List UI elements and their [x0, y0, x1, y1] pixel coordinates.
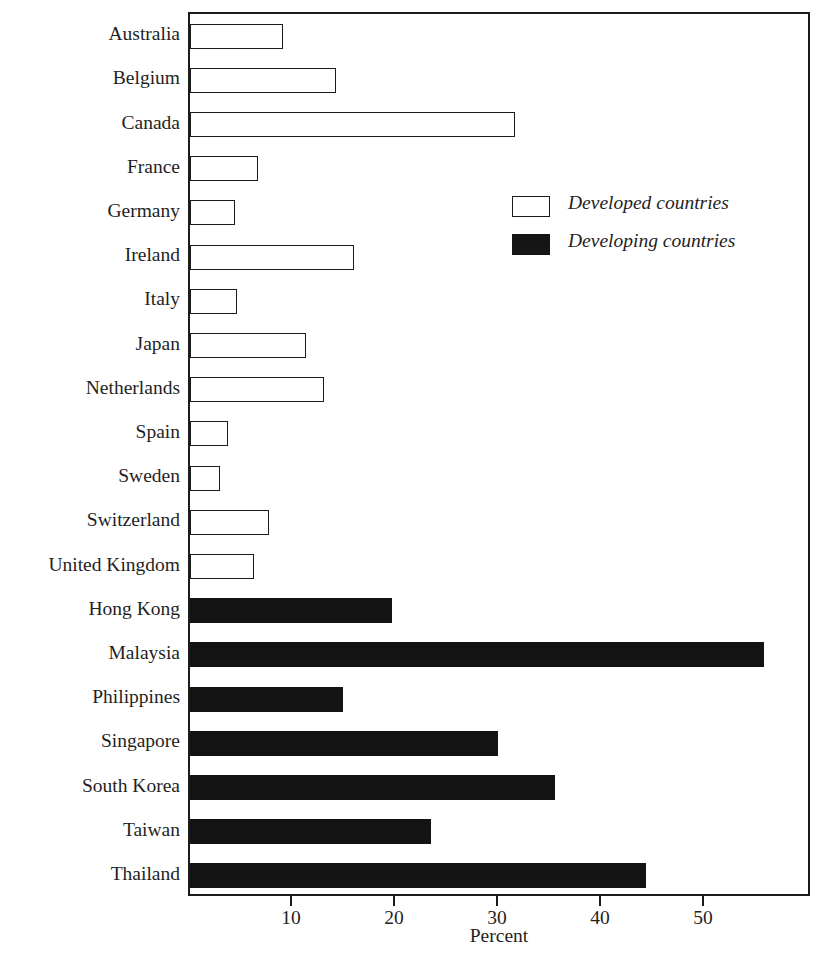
category-label-france: France	[0, 157, 180, 177]
category-label-italy: Italy	[0, 289, 180, 309]
open-square-icon	[512, 196, 550, 217]
category-label-south-korea: South Korea	[0, 776, 180, 796]
category-label-australia: Australia	[0, 24, 180, 44]
bar-chart-figure: AustraliaBelgiumCanadaFranceGermanyIrela…	[0, 0, 827, 977]
bar-united-kingdom	[190, 554, 254, 579]
bar-canada	[190, 112, 515, 137]
category-label-switzerland: Switzerland	[0, 510, 180, 530]
category-label-thailand: Thailand	[0, 864, 180, 884]
chart-legend: Developed countries Developing countries	[512, 192, 787, 268]
x-tick-label-10: 10	[281, 908, 301, 928]
category-label-philippines: Philippines	[0, 687, 180, 707]
x-tick-20	[393, 896, 395, 906]
bar-taiwan	[190, 819, 431, 844]
bar-thailand	[190, 863, 646, 888]
bar-italy	[190, 289, 237, 314]
bar-sweden	[190, 466, 220, 491]
x-tick-10	[290, 896, 292, 906]
category-label-taiwan: Taiwan	[0, 820, 180, 840]
legend-label-developing: Developing countries	[568, 230, 735, 252]
category-axis-labels: AustraliaBelgiumCanadaFranceGermanyIrela…	[0, 12, 180, 896]
bar-japan	[190, 333, 306, 358]
category-label-hong-kong: Hong Kong	[0, 599, 180, 619]
category-label-japan: Japan	[0, 334, 180, 354]
category-label-belgium: Belgium	[0, 68, 180, 88]
x-axis-title: Percent	[188, 925, 810, 947]
x-tick-30	[496, 896, 498, 906]
bar-south-korea	[190, 775, 555, 800]
legend-label-developed: Developed countries	[568, 192, 729, 214]
plot-area	[188, 12, 810, 896]
x-tick-label-20: 20	[384, 908, 404, 928]
x-tick-label-40: 40	[590, 908, 610, 928]
bar-belgium	[190, 68, 336, 93]
filled-square-icon	[512, 234, 550, 255]
bar-germany	[190, 200, 235, 225]
category-label-spain: Spain	[0, 422, 180, 442]
bar-france	[190, 156, 258, 181]
legend-item-developed: Developed countries	[512, 192, 787, 230]
category-label-germany: Germany	[0, 201, 180, 221]
bar-spain	[190, 421, 228, 446]
bar-philippines	[190, 687, 343, 712]
legend-item-developing: Developing countries	[512, 230, 787, 268]
category-label-united-kingdom: United Kingdom	[0, 555, 180, 575]
x-tick-40	[599, 896, 601, 906]
category-label-netherlands: Netherlands	[0, 378, 180, 398]
bar-malaysia	[190, 642, 764, 667]
bar-australia	[190, 24, 283, 49]
bar-ireland	[190, 245, 354, 270]
category-label-ireland: Ireland	[0, 245, 180, 265]
bar-netherlands	[190, 377, 324, 402]
category-label-sweden: Sweden	[0, 466, 180, 486]
x-tick-label-50: 50	[693, 908, 713, 928]
x-tick-50	[702, 896, 704, 906]
bar-singapore	[190, 731, 498, 756]
chart-title-remnant	[0, 0, 827, 3]
category-label-canada: Canada	[0, 113, 180, 133]
bar-hong-kong	[190, 598, 392, 623]
x-tick-label-30: 30	[487, 908, 507, 928]
category-label-singapore: Singapore	[0, 731, 180, 751]
category-label-malaysia: Malaysia	[0, 643, 180, 663]
bar-switzerland	[190, 510, 269, 535]
